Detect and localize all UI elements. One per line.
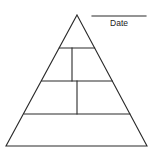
tier-4-section[interactable] — [6, 114, 147, 146]
tier-2-right-section[interactable] — [72, 48, 112, 81]
tier-1-section[interactable] — [59, 15, 94, 48]
tier-3-right-section[interactable] — [77, 81, 130, 114]
date-field[interactable]: Date — [92, 16, 146, 28]
date-label: Date — [110, 18, 128, 28]
pyramid-diagram: Date — [0, 0, 153, 159]
tier-2-left-section[interactable] — [42, 48, 72, 81]
